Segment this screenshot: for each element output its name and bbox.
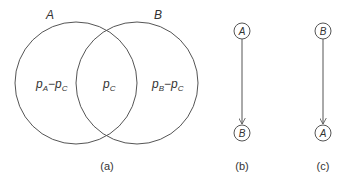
node-bottom-c-label: A [319, 128, 327, 139]
figure: A B pA−pC pC pB−pC (a) A B (b) B A (c) [0, 0, 345, 178]
set-b-label: B [154, 8, 162, 22]
caption-c: (c) [317, 160, 330, 172]
caption-b: (b) [235, 160, 248, 172]
node-top-b-label: A [238, 26, 246, 37]
region-b-only-label: pB−pC [151, 77, 184, 93]
set-a-label: A [45, 8, 54, 22]
graph-c: B A (c) [315, 23, 331, 172]
graph-b: A B (b) [234, 23, 250, 172]
region-intersection-label: pC [102, 77, 116, 93]
node-bottom-b-label: B [239, 128, 246, 139]
venn-diagram: A B pA−pC pC pB−pC (a) [15, 8, 198, 172]
caption-a: (a) [100, 160, 113, 172]
region-a-only-label: pA−pC [35, 77, 68, 93]
node-top-c-label: B [320, 26, 327, 37]
